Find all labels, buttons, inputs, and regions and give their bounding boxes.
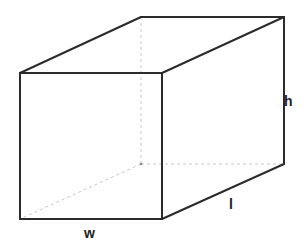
hidden-edge-left-bottom-depth xyxy=(20,164,141,219)
visible-edges xyxy=(20,17,284,219)
height-label: h xyxy=(284,93,293,109)
rectangular-prism-diagram: w l h xyxy=(0,0,306,247)
edge-bottom-right-depth xyxy=(162,164,284,219)
width-label: w xyxy=(83,225,95,241)
hidden-vertex xyxy=(140,163,143,166)
edge-top-left-depth xyxy=(20,17,141,73)
edge-top-right-depth xyxy=(162,17,284,73)
hidden-edges xyxy=(20,17,284,219)
length-label: l xyxy=(229,196,233,212)
